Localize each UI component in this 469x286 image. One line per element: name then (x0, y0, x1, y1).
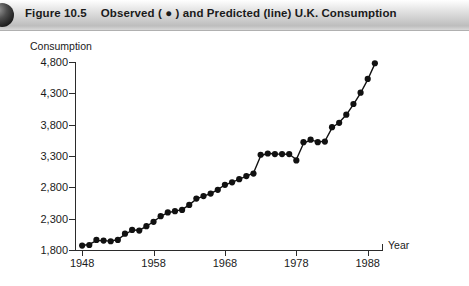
observed-data-point (315, 139, 321, 145)
observed-data-point (165, 209, 171, 215)
observed-data-point (186, 202, 192, 208)
observed-data-point (129, 227, 135, 233)
observed-data-point (122, 231, 128, 237)
observed-data-point (79, 243, 85, 249)
observed-data-point (279, 151, 285, 157)
figure-description-label: Observed ( ● ) and Predicted (line) U.K.… (101, 7, 397, 19)
observed-data-point (357, 90, 363, 96)
observed-data-point (93, 237, 99, 243)
observed-data-point (322, 138, 328, 144)
observed-data-point (158, 213, 164, 219)
observed-data-point (293, 157, 299, 163)
observed-data-point (136, 227, 142, 233)
observed-data-point (115, 237, 121, 243)
observed-data-point (350, 101, 356, 107)
observed-data-point (258, 152, 264, 158)
figure-panel: Figure 10.5Observed ( ● ) and Predicted … (0, 0, 469, 286)
chart-canvas (0, 30, 469, 286)
observed-point-series (79, 60, 378, 249)
figure-number-label: Figure 10.5 (25, 7, 87, 19)
plot-area: Consumption Year 1,8002,3002,8003,3003,8… (0, 30, 469, 286)
bullet-sphere-icon (0, 3, 14, 27)
observed-data-point (272, 151, 278, 157)
predicted-line-series (82, 64, 375, 246)
observed-data-point (336, 120, 342, 126)
observed-data-point (308, 137, 314, 143)
observed-data-point (236, 176, 242, 182)
observed-data-point (193, 196, 199, 202)
observed-data-point (243, 173, 249, 179)
observed-data-point (215, 187, 221, 193)
figure-title-banner: Figure 10.5Observed ( ● ) and Predicted … (0, 0, 469, 31)
observed-data-point (222, 182, 228, 188)
observed-data-point (208, 191, 214, 197)
observed-data-point (343, 112, 349, 118)
observed-data-point (143, 223, 149, 229)
observed-data-point (300, 139, 306, 145)
observed-data-point (150, 219, 156, 225)
observed-data-point (200, 193, 206, 199)
observed-data-point (229, 179, 235, 185)
observed-data-point (372, 60, 378, 66)
observed-data-point (329, 124, 335, 130)
observed-data-point (179, 207, 185, 213)
observed-data-point (250, 170, 256, 176)
observed-data-point (265, 150, 271, 156)
figure-title: Figure 10.5Observed ( ● ) and Predicted … (25, 7, 397, 19)
observed-data-point (286, 151, 292, 157)
observed-data-point (100, 238, 106, 244)
observed-data-point (172, 208, 178, 214)
observed-data-point (86, 242, 92, 248)
observed-data-point (108, 238, 114, 244)
observed-data-point (365, 76, 371, 82)
